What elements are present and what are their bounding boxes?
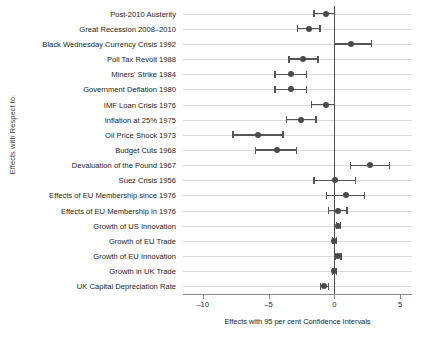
- x-axis-tick-label: –10: [196, 300, 209, 309]
- ci-lower-cap: [297, 25, 298, 32]
- ci-lower-cap: [255, 147, 256, 154]
- data-point-marker[interactable]: [367, 162, 373, 168]
- category-label: Government Deflation 1980: [0, 85, 180, 94]
- ci-lower-cap: [313, 177, 314, 184]
- x-axis-tick-label: –5: [264, 300, 272, 309]
- data-point-marker[interactable]: [335, 208, 341, 214]
- category-label: Post-2010 Austerity: [0, 9, 180, 18]
- data-point-marker[interactable]: [288, 71, 294, 77]
- ci-upper-cap: [282, 131, 283, 138]
- x-axis-tick-label: 0: [332, 300, 336, 309]
- ci-lower-cap: [286, 116, 287, 123]
- zero-reference-line: [334, 6, 335, 294]
- gridline: [183, 44, 412, 45]
- gridline: [183, 14, 412, 15]
- gridline: [183, 211, 412, 212]
- ci-upper-cap: [355, 177, 356, 184]
- data-point-marker[interactable]: [306, 26, 312, 32]
- x-axis-tick: [203, 295, 204, 299]
- data-point-marker[interactable]: [288, 86, 294, 92]
- gridline: [183, 180, 412, 181]
- category-label: Great Recession 2008–2010: [0, 24, 180, 33]
- ci-lower-cap: [232, 131, 233, 138]
- ci-upper-cap: [319, 25, 320, 32]
- x-axis-tick: [400, 295, 401, 299]
- ci-upper-cap: [315, 116, 316, 123]
- data-point-marker[interactable]: [343, 192, 349, 198]
- gridline: [183, 286, 412, 287]
- data-point-marker[interactable]: [332, 177, 338, 183]
- gridline: [183, 150, 412, 151]
- category-label: Devaluation of the Pound 1967: [0, 161, 180, 170]
- category-label: Black Wednesday Currency Crisis 1992: [0, 39, 180, 48]
- ci-lower-cap: [328, 207, 329, 214]
- category-label: IMF Loan Crisis 1976: [0, 100, 180, 109]
- ci-upper-cap: [306, 86, 307, 93]
- ci-lower-cap: [288, 56, 289, 63]
- x-axis-line: [183, 294, 412, 295]
- ci-upper-cap: [317, 56, 318, 63]
- category-label: Miners' Strike 1984: [0, 70, 180, 79]
- gridline: [183, 256, 412, 257]
- ci-upper-cap: [389, 162, 390, 169]
- gridline: [183, 226, 412, 227]
- data-point-marker[interactable]: [298, 117, 304, 123]
- ci-upper-cap: [364, 192, 365, 199]
- data-point-marker[interactable]: [323, 102, 329, 108]
- ci-upper-cap: [334, 101, 335, 108]
- ci-lower-cap: [326, 192, 327, 199]
- x-axis-tick-label: 5: [398, 300, 402, 309]
- ci-lower-cap: [311, 101, 312, 108]
- ci-lower-cap: [350, 162, 351, 169]
- category-label: Growth in UK Trade: [0, 267, 180, 276]
- category-label: Growth of EU Innovation: [0, 252, 180, 261]
- ci-upper-cap: [306, 71, 307, 78]
- category-label: Suez Crisis 1956: [0, 176, 180, 185]
- y-axis-category-labels: Post-2010 AusterityGreat Recession 2008–…: [0, 6, 180, 294]
- ci-upper-cap: [296, 147, 297, 154]
- gridline: [183, 241, 412, 242]
- gridline: [183, 135, 412, 136]
- ci-upper-cap: [371, 40, 372, 47]
- ci-lower-cap: [334, 40, 335, 47]
- gridline: [183, 271, 412, 272]
- ci-upper-cap: [328, 283, 329, 290]
- gridline: [183, 105, 412, 106]
- ci-upper-cap: [334, 10, 335, 17]
- ci-lower-cap: [274, 71, 275, 78]
- gridline: [183, 195, 412, 196]
- category-label: Growth of EU Trade: [0, 236, 180, 245]
- x-axis-title: Effects with 95 per cent Confidence Inte…: [183, 317, 412, 326]
- ci-upper-cap: [346, 207, 347, 214]
- category-label: Inflation at 25% 1975: [0, 115, 180, 124]
- category-label: Poll Tax Revolt 1988: [0, 55, 180, 64]
- data-point-marker[interactable]: [348, 41, 354, 47]
- data-point-marker[interactable]: [255, 132, 261, 138]
- category-label: Effects of EU Membership since 1976: [0, 191, 180, 200]
- data-point-marker[interactable]: [274, 147, 280, 153]
- category-label: Oil Price Shock 1973: [0, 130, 180, 139]
- data-point-marker[interactable]: [335, 253, 341, 259]
- category-label: Budget Cuts 1968: [0, 146, 180, 155]
- x-axis-tick: [269, 295, 270, 299]
- data-point-marker[interactable]: [321, 283, 327, 289]
- plot-area: [183, 6, 412, 294]
- forest-plot-chart: Effects with Respect to: Post-2010 Auste…: [0, 0, 428, 344]
- ci-lower-cap: [313, 10, 314, 17]
- ci-lower-cap: [274, 86, 275, 93]
- x-axis-tick: [334, 295, 335, 299]
- category-label: Growth of US Innovation: [0, 221, 180, 230]
- category-label: UK Capital Depreciation Rate: [0, 282, 180, 291]
- category-label: Effects of EU Membership in 1976: [0, 206, 180, 215]
- data-point-marker[interactable]: [323, 11, 329, 17]
- data-point-marker[interactable]: [300, 56, 306, 62]
